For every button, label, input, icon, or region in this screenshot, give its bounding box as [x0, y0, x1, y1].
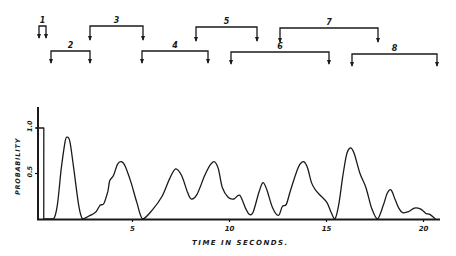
segment-bracket-1: 1 [37, 16, 48, 39]
segment-bracket-6: 6 [229, 42, 331, 65]
chart-figure: 12345678 0.51.0 5101520 PROBABILITY TIME… [0, 0, 456, 256]
segment-bracket-8: 8 [350, 44, 439, 67]
segment-label: 1 [40, 16, 46, 25]
arrow-down-icon [44, 34, 48, 39]
y-tick-label: 1.0 [26, 120, 34, 132]
arrow-down-icon [229, 60, 233, 65]
arrow-down-icon [255, 37, 259, 42]
segment-bracket-2: 2 [49, 41, 92, 64]
segment-brackets: 12345678 [37, 16, 439, 67]
segment-label: 7 [326, 18, 332, 27]
probability-curve [36, 128, 436, 219]
arrow-down-icon [88, 59, 92, 64]
segment-label: 5 [224, 17, 230, 26]
segment-bracket-5: 5 [194, 17, 259, 42]
x-tick-label: 20 [419, 225, 429, 233]
segment-label: 8 [392, 44, 398, 53]
x-axis-label: TIME IN SECONDS. [192, 239, 289, 247]
x-tick-label: 10 [225, 225, 235, 233]
arrow-down-icon [49, 59, 53, 64]
segment-label: 6 [277, 42, 283, 51]
segment-label: 4 [171, 41, 178, 50]
plot-area: 0.51.0 5101520 PROBABILITY TIME IN SECON… [14, 107, 440, 247]
segment-label: 3 [114, 16, 120, 25]
y-tick-label: 0.5 [26, 166, 34, 178]
arrow-down-icon [88, 36, 92, 41]
arrow-down-icon [350, 62, 354, 67]
y-axis-label: PROBABILITY [14, 137, 22, 195]
segment-bracket-7: 7 [278, 18, 380, 43]
arrow-down-icon [140, 59, 144, 64]
arrow-down-icon [435, 62, 439, 67]
arrow-down-icon [194, 37, 198, 42]
arrow-down-icon [37, 34, 41, 39]
arrow-down-icon [327, 60, 331, 65]
arrow-down-icon [376, 38, 380, 43]
segment-bracket-3: 3 [88, 16, 145, 41]
segment-bracket-4: 4 [140, 41, 210, 64]
x-tick-label: 5 [130, 225, 135, 233]
x-tick-label: 15 [322, 225, 332, 233]
segment-label: 2 [68, 41, 74, 50]
arrow-down-icon [206, 59, 210, 64]
x-ticks: 5101520 [130, 219, 428, 233]
arrow-down-icon [141, 36, 145, 41]
